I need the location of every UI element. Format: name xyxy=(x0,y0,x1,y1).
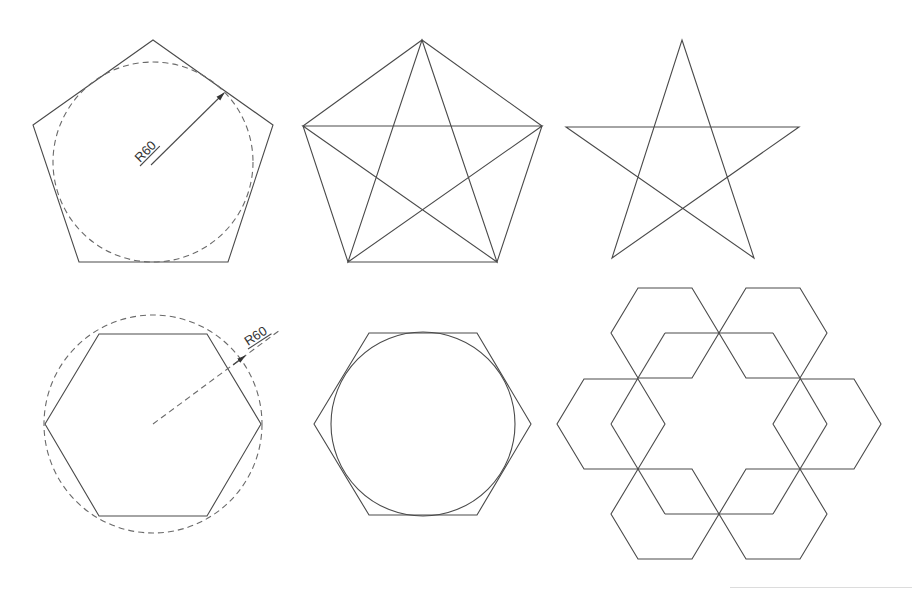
ring-hexagon xyxy=(719,288,827,378)
radius-leader-line xyxy=(153,330,280,424)
outline-polygon xyxy=(314,333,531,515)
ring-hexagon xyxy=(719,469,827,559)
hexagon-spoke xyxy=(800,378,827,424)
hexagon-spoke xyxy=(611,378,638,424)
star-lines xyxy=(566,40,799,258)
six-hexagon-ring-pattern xyxy=(557,288,881,559)
hexagon-inscribed-in-circle: R60 xyxy=(44,315,280,533)
geometry-drawing-canvas: R60 R60 xyxy=(0,0,912,589)
hexagon-with-inscribed-circle xyxy=(314,332,531,516)
footer-rule xyxy=(730,587,912,588)
hexagon-spoke xyxy=(638,469,665,514)
hexagon-spoke xyxy=(611,424,638,469)
outline-polygon xyxy=(45,334,261,516)
pentagon-circumscribed-about-circle: R60 xyxy=(33,40,273,262)
circle xyxy=(331,332,515,516)
hexagon-spoke xyxy=(773,469,800,514)
ring-hexagon xyxy=(557,378,665,469)
hexagon-spoke xyxy=(800,424,827,469)
hexagon-spoke xyxy=(773,333,800,378)
pentagon-with-inscribed-star xyxy=(303,40,542,262)
dashed-circle xyxy=(53,62,253,262)
ring-hexagon xyxy=(773,378,881,469)
pentagram-star xyxy=(566,40,799,258)
hexagon-spoke xyxy=(638,333,665,378)
radius-leader-line xyxy=(151,93,224,165)
star-lines xyxy=(303,40,542,262)
ring-hexagon xyxy=(611,469,719,559)
ring-hexagon xyxy=(611,288,719,378)
